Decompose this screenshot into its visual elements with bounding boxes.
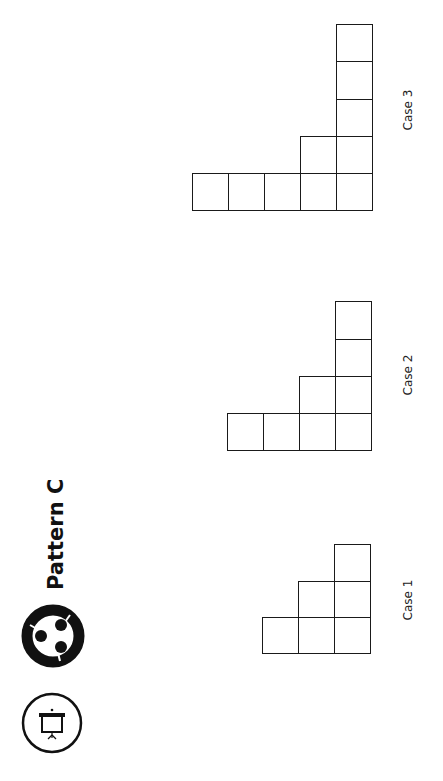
case-3-label: Case 3 xyxy=(400,80,416,140)
team-collaboration-icon xyxy=(20,603,86,669)
page-title: Pattern C xyxy=(43,490,69,590)
projector-icon xyxy=(21,692,83,754)
case-2-label: Case 2 xyxy=(400,345,416,405)
case-1-label: Case 1 xyxy=(400,570,416,630)
